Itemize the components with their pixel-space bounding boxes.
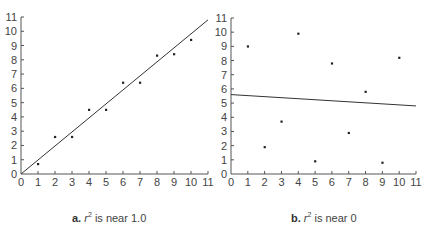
x-tick-label: 4 [295, 176, 301, 188]
x-tick-label: 1 [245, 176, 251, 188]
figure: 0123456789101101234567891011 01234567891… [0, 0, 429, 236]
x-tick-label: 10 [393, 176, 405, 188]
data-point [348, 132, 350, 134]
x-tick-label: 8 [154, 176, 160, 188]
data-point [37, 163, 39, 165]
data-point [398, 57, 400, 59]
regression-line [21, 20, 208, 174]
caption-b: b. r2 is near 0 [291, 211, 357, 224]
y-tick-label: 5 [221, 97, 227, 109]
x-tick-label: 5 [312, 176, 318, 188]
data-points [247, 33, 401, 164]
x-tick-label: 6 [120, 176, 126, 188]
x-tick-label: 5 [103, 176, 109, 188]
data-point [54, 136, 56, 138]
y-tick-label: 9 [11, 40, 17, 52]
data-point [88, 109, 90, 111]
y-tick-label: 7 [221, 69, 227, 81]
y-tick-label: 10 [5, 25, 17, 37]
y-tick-label: 9 [221, 40, 227, 52]
caption-a: a. r2 is near 1.0 [72, 211, 146, 224]
data-point [71, 136, 73, 138]
x-tick-label: 9 [171, 176, 177, 188]
y-tick-label: 1 [11, 154, 17, 166]
caption-a-text: is near 1.0 [92, 212, 146, 224]
x-tick-label: 9 [379, 176, 385, 188]
x-tick-label: 3 [278, 176, 284, 188]
y-tick-label: 0 [11, 168, 17, 180]
y-tick-label: 4 [11, 111, 17, 123]
y-tick-label: 1 [221, 154, 227, 166]
y-tick-label: 6 [11, 82, 17, 94]
data-point [365, 91, 367, 93]
data-point [331, 62, 333, 64]
x-tick-label: 7 [346, 176, 352, 188]
data-point [280, 121, 282, 123]
x-tick-label: 10 [185, 176, 197, 188]
data-point [173, 53, 175, 55]
x-tick-label: 2 [52, 176, 58, 188]
y-tick-label: 0 [221, 168, 227, 180]
caption-b-label: b. [291, 212, 301, 224]
data-point [190, 39, 192, 41]
x-tick-label: 7 [137, 176, 143, 188]
x-tick-label: 0 [18, 176, 24, 188]
data-point [381, 162, 383, 164]
chart-b-scatter: 0123456789101101234567891011 [215, 12, 422, 188]
data-point [247, 45, 249, 47]
y-tick-label: 11 [6, 11, 17, 23]
caption-a-label: a. [72, 212, 81, 224]
x-tick-label: 11 [410, 176, 421, 188]
x-tick-label: 1 [35, 176, 41, 188]
x-tick-label: 3 [69, 176, 75, 188]
y-tick-label: 3 [221, 125, 227, 137]
y-tick-label: 2 [11, 139, 17, 151]
data-points [37, 39, 192, 165]
data-point [122, 82, 124, 84]
regression-line [231, 95, 416, 106]
y-tick-label: 11 [216, 12, 227, 24]
data-point [139, 82, 141, 84]
data-point [297, 33, 299, 35]
x-tick-label: 6 [329, 176, 335, 188]
y-tick-label: 2 [221, 140, 227, 152]
chart-a-scatter: 0123456789101101234567891011 [5, 11, 214, 188]
y-tick-label: 5 [11, 97, 17, 109]
x-tick-label: 8 [362, 176, 368, 188]
y-tick-label: 8 [11, 54, 17, 66]
x-tick-label: 0 [228, 176, 234, 188]
y-tick-label: 6 [221, 83, 227, 95]
y-tick-label: 7 [11, 68, 17, 80]
data-point [105, 109, 107, 111]
data-point [264, 146, 266, 148]
y-tick-label: 10 [215, 26, 227, 38]
x-tick-label: 4 [86, 176, 92, 188]
y-tick-label: 4 [221, 111, 227, 123]
data-point [314, 160, 316, 162]
x-tick-label: 2 [262, 176, 268, 188]
caption-b-text: is near 0 [311, 212, 356, 224]
x-tick-label: 11 [202, 176, 213, 188]
y-tick-label: 8 [221, 55, 227, 67]
y-tick-label: 3 [11, 125, 17, 137]
data-point [156, 55, 158, 57]
